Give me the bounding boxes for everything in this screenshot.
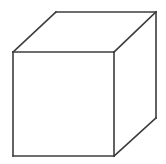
figure-canvas <box>0 0 166 164</box>
cube-face-front <box>13 52 114 156</box>
cube-drawing <box>0 0 166 164</box>
